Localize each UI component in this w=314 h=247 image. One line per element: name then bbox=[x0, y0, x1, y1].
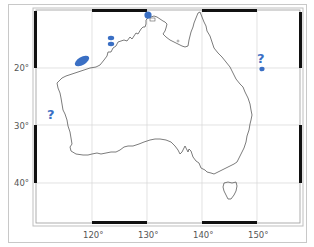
x-tick-140: 140° bbox=[193, 230, 213, 240]
x-tick-120: 120° bbox=[83, 230, 103, 240]
tiwi-islands bbox=[150, 18, 155, 21]
west-coast-question-mark: ? bbox=[47, 108, 55, 121]
kimberley-dot-upper[interactable] bbox=[108, 36, 114, 40]
east-coast-question-mark: ? bbox=[257, 52, 265, 65]
x-tick-130: 130° bbox=[138, 230, 158, 240]
kimberley-dot-lower[interactable] bbox=[108, 42, 114, 46]
frame-scale-bars bbox=[34, 9, 302, 224]
y-tick-20: 20° bbox=[14, 63, 29, 73]
east-coast-dot[interactable] bbox=[259, 67, 264, 72]
tasmania-coastline bbox=[223, 182, 237, 199]
inner-frame bbox=[36, 10, 300, 223]
north-west-shelf-ellipse[interactable] bbox=[73, 54, 91, 69]
groote-eylandt bbox=[177, 40, 179, 42]
y-tick-30: 30° bbox=[14, 121, 29, 131]
map-canvas bbox=[0, 0, 314, 247]
inner-frame-outer-line bbox=[33, 8, 303, 226]
gridlines bbox=[36, 10, 300, 223]
x-tick-150: 150° bbox=[248, 230, 268, 240]
australia-coastline bbox=[57, 12, 252, 174]
darwin-north-dot[interactable] bbox=[144, 11, 151, 18]
y-tick-40: 40° bbox=[14, 178, 29, 188]
